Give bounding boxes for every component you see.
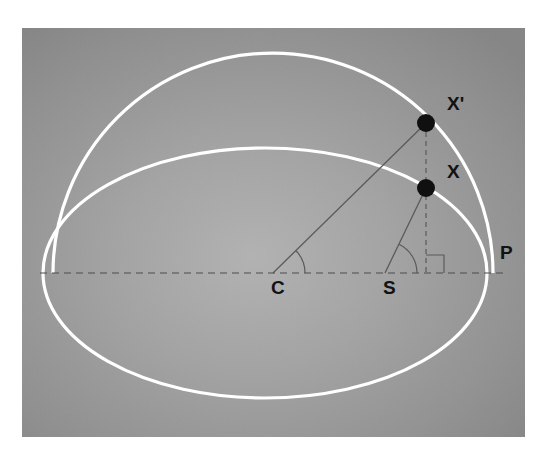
point-x-marker [417, 179, 435, 197]
point-x-prime-marker [417, 114, 435, 132]
point-c-label: C [271, 277, 285, 298]
point-s-label: S [383, 277, 396, 298]
orbit-diagram: X'XPCS [22, 28, 525, 437]
figure-root: X'XPCS [0, 0, 547, 463]
panel-grain-overlay [22, 28, 525, 437]
point-x-label: X [447, 161, 460, 182]
point-x-prime-label: X' [447, 93, 464, 114]
diagram-panel: X'XPCS [22, 28, 525, 437]
point-p-label: P [500, 242, 513, 263]
